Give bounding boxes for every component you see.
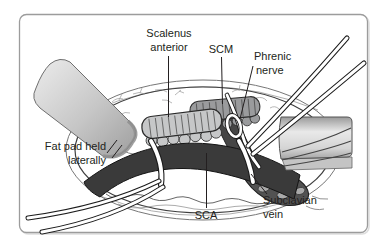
fat-pad-label-line1: Fat pad held (45, 140, 106, 152)
sca-label: SCA (195, 209, 218, 221)
subclavian-vein-label-line1: Subclavian (263, 194, 317, 206)
scalenus-anterior-label-line2: anterior (150, 41, 188, 53)
scm-label: SCM (209, 43, 233, 55)
figure-frame: Scalenus anterior SCM Phrenic nerve Fat … (0, 0, 385, 245)
fat-pad-label-line2: laterally (68, 154, 106, 166)
phrenic-nerve-label-line1: Phrenic (254, 50, 292, 62)
scalenus-anterior-label-line1: Scalenus (146, 27, 192, 39)
subclavian-vein-label-line2: vein (263, 208, 283, 220)
phrenic-nerve-label-line2: nerve (256, 64, 284, 76)
